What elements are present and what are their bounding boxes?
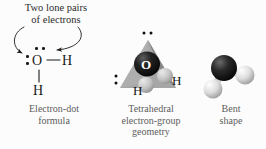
tetra-lone-pair-dot-left-2 (115, 82, 118, 85)
lewis-bonds (39, 60, 60, 82)
tetra-lone-pair-dot-apex-1 (143, 32, 146, 35)
bent-oxygen-sphere (211, 55, 237, 81)
arrow-to-left-lone-pair (14, 27, 24, 53)
caption-lewis-line-1: Electron-dot (6, 103, 102, 115)
bent-shape-model (204, 55, 255, 99)
lewis-lone-pair-dot-left-2 (26, 62, 29, 65)
lewis-lone-pair-dot-top-1 (35, 47, 38, 50)
lewis-hydrogen-bottom-label: H (33, 84, 43, 98)
lewis-hydrogen-right-label: H (62, 54, 72, 68)
caption-bent-shape: Bent shape (198, 103, 264, 126)
tetrahedron-oxygen-label: O (141, 58, 151, 71)
caption-tetra-line-2: electron-group (104, 115, 198, 127)
caption-tetra-line-3: geometry (104, 126, 198, 138)
caption-bent-line-1: Bent (198, 103, 264, 115)
caption-tetrahedral-geometry: Tetrahedral electron-group geometry (104, 103, 198, 138)
annotation-line-2: of electrons (4, 14, 108, 26)
caption-lewis-line-2: formula (6, 115, 102, 127)
tetra-lone-pair-dot-left-1 (115, 75, 118, 78)
caption-electron-dot-formula: Electron-dot formula (6, 103, 102, 126)
tetra-lone-pair-dot-apex-2 (150, 32, 153, 35)
bent-hydrogen-sphere-right (236, 66, 255, 85)
lone-pair-annotation: Two lone pairs of electrons (4, 2, 108, 25)
lewis-lone-pair-dot-top-2 (42, 47, 45, 50)
caption-bent-line-2: shape (198, 115, 264, 127)
lewis-oxygen-label: O (32, 54, 42, 68)
tetrahedron-hydrogen-right-label: H (172, 74, 181, 87)
arrow-to-top-lone-pair (57, 27, 81, 50)
tetrahedron-hydrogen-left-label: H (133, 84, 142, 97)
lone-pair-arrows (14, 27, 81, 53)
annotation-line-1: Two lone pairs (4, 2, 108, 14)
caption-tetra-line-1: Tetrahedral (104, 103, 198, 115)
bent-hydrogen-sphere-bottom (204, 80, 223, 99)
tetrahedron-hydrogen-sphere-right (157, 68, 173, 84)
lewis-lone-pair-dot-left-1 (26, 55, 29, 58)
water-molecule-figure: Two lone pairs of electrons O H H O H H … (0, 0, 266, 149)
